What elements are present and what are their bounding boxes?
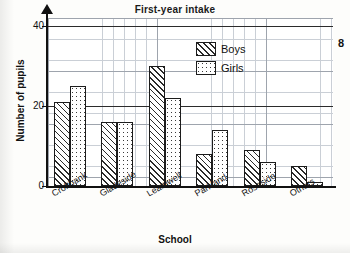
bars-layer [48, 18, 333, 186]
scan-shadow-left [0, 0, 14, 253]
legend-label: Girls [221, 62, 244, 74]
legend-item-girls: Girls [196, 61, 288, 75]
bar-gladeside-boys [101, 122, 117, 186]
legend-label: Boys [221, 43, 245, 55]
y-tick-label: 0 [22, 180, 44, 191]
x-axis-category-labels: CroftbankGladesideLearnwellParklandRoses… [48, 188, 333, 236]
legend: BoysGirls [196, 42, 288, 80]
x-axis-title: School [0, 234, 350, 245]
margin-question-number: 8 [338, 37, 344, 49]
y-tick-label: 40 [22, 20, 44, 31]
legend-item-boys: Boys [196, 42, 288, 56]
y-axis-title: Number of pupils [15, 41, 26, 161]
bar-learnwell-boys [149, 66, 165, 186]
bar-croftbank-boys [54, 102, 70, 186]
chart-page: First-year intake 8 02040 CroftbankGlade… [0, 0, 350, 253]
legend-swatch-girls-icon [196, 61, 216, 75]
legend-swatch-boys-icon [196, 42, 216, 56]
